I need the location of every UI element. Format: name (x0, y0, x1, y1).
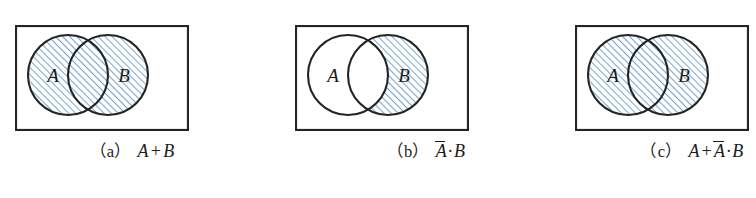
venn-figure: A B （a）A+B (0, 0, 756, 198)
caption-term-c1: A (688, 141, 699, 161)
caption-tag-c: （c） (640, 142, 682, 161)
caption-term-a2: B (163, 141, 174, 161)
venn-svg-c: A B (575, 25, 749, 131)
venn-diagram-a: A B (15, 25, 189, 131)
venn-svg-a: A B (15, 25, 189, 131)
caption-operator-c2: · (726, 141, 732, 161)
venn-panel-c: A B （c）A+A·B (504, 0, 756, 198)
circle-a-label-b: A (325, 65, 339, 86)
circle-b-label-a: B (118, 65, 130, 86)
caption-term-c3: B (732, 141, 743, 161)
caption-term-b1-overlined: A (436, 142, 447, 160)
caption-term-a1: A (138, 141, 149, 161)
venn-panel-b: A B （b）A·B (252, 0, 504, 198)
caption-term-c2-overlined: A (714, 142, 725, 160)
caption-operator-a: + (151, 141, 161, 161)
circle-b-label-b: B (398, 65, 410, 86)
venn-diagram-c: A B (575, 25, 749, 131)
caption-a: （a）A+B (0, 142, 258, 161)
caption-tag-a: （a） (90, 142, 132, 161)
circle-b-label-c: B (678, 65, 690, 86)
caption-expression-a: A+B (138, 141, 175, 161)
caption-operator-b: · (447, 141, 453, 161)
caption-expression-c: A+A·B (688, 141, 743, 161)
caption-term-b2: B (454, 141, 465, 161)
circle-a-label-a: A (45, 65, 59, 86)
caption-c: （c）A+A·B (504, 142, 756, 161)
caption-operator-c1: + (702, 141, 712, 161)
venn-panel-a: A B （a）A+B (0, 0, 252, 198)
venn-svg-b: A B (295, 25, 469, 131)
caption-expression-b: A·B (436, 141, 466, 161)
circle-a-label-c: A (605, 65, 619, 86)
venn-diagram-b: A B (295, 25, 469, 131)
caption-tag-b: （b） (387, 142, 430, 161)
